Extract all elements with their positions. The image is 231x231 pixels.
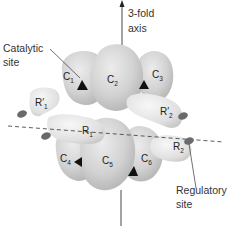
label-r1-prime: R′1 [35,97,48,110]
label-r1: R1 [82,125,93,138]
subunit-r2-prime [127,94,183,129]
threefold-axis-arrow [120,0,125,50]
label-r2: R2 [173,141,184,154]
label-c3: C3 [152,69,163,82]
regulatory-site-label-line2: site [176,198,192,210]
label-r2-prime: R′2 [160,106,173,119]
label-c1: C1 [63,71,74,84]
regulatory-site-label-line1: Regulatory [176,184,227,196]
subunit-r1 [47,114,105,144]
label-c5: C5 [102,155,113,168]
site-marker [16,109,28,119]
label-c2: C2 [107,74,118,87]
catalytic-site-label-line1: Catalytic [3,42,43,54]
axis-label-line2: axis [128,22,147,34]
atcase-structure-diagram: 3-fold axis Catalytic site Regulatory si… [0,0,231,231]
regulatory-leader-line [189,144,196,188]
label-c4: C4 [60,153,71,166]
catalytic-site-label-line2: site [3,56,19,68]
label-c6: C6 [141,153,152,166]
axis-label-line1: 3-fold [128,7,154,19]
protein-diagram-svg [0,0,231,231]
